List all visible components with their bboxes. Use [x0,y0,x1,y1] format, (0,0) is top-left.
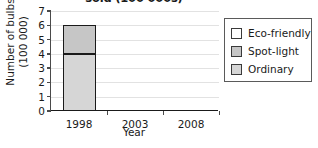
y-tick-mark-5 [47,39,51,40]
y-axis-title: Number of bulbs (100 000) [4,0,32,96]
gridline-y-7 [51,11,219,12]
legend-swatch-spot-light [231,46,242,57]
y-axis-title-line-2: (100 000) [17,0,30,96]
y-tick-mark-3 [47,67,51,68]
y-tick-mark-6 [47,25,51,26]
legend-item-spot-light: Spot-light [231,42,311,60]
y-tick-label-3: 3 [38,62,45,74]
y-tick-mark-2 [47,82,51,83]
x-tick-mark-2008 [219,111,220,115]
chart-legend: Eco-friendly Spot-light Ordinary [224,18,312,82]
y-tick-label-0: 0 [38,105,45,117]
chart-figure: sold (100 000s) Number of bulbs (100 000… [0,0,318,148]
y-tick-label-5: 5 [38,34,45,46]
y-axis-title-line-1: Number of bulbs [4,0,16,86]
legend-label-spot-light: Spot-light [248,45,299,57]
legend-swatch-ordinary [231,64,242,75]
legend-item-eco-friendly: Eco-friendly [231,24,311,42]
y-tick-mark-1 [47,96,51,97]
y-tick-mark-0 [47,110,51,111]
x-tick-mark-1998 [107,111,108,115]
y-tick-mark-7 [47,10,51,11]
y-tick-mark-4 [47,53,51,54]
bar-segment-1998-spot-light [63,25,96,54]
legend-swatch-eco-friendly [231,28,242,39]
legend-item-ordinary: Ordinary [231,60,311,78]
x-tick-mark-2003 [163,111,164,115]
legend-label-ordinary: Ordinary [248,63,294,75]
plot-area: 01234567199820032008 [50,11,218,111]
y-tick-label-6: 6 [38,19,45,31]
x-axis-title: Year [50,126,218,138]
chart-title: sold (100 000s) [50,0,218,5]
y-tick-label-4: 4 [38,48,45,60]
y-tick-label-2: 2 [38,76,45,88]
y-tick-label-7: 7 [38,5,45,17]
bar-segment-1998-ordinary [63,54,96,111]
legend-label-eco-friendly: Eco-friendly [248,27,311,39]
y-tick-label-1: 1 [38,91,45,103]
